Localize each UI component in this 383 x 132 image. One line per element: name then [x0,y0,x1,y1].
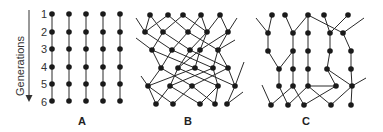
generation-number: 1 [41,8,47,20]
generations-axis: Generations [14,10,33,102]
panel-c [256,12,366,108]
panel-label-c: C [302,115,310,127]
generation-number: 3 [41,43,47,55]
panel-b [136,12,244,107]
generation-number: 4 [41,61,47,73]
generations-diagram: Generations 1 2 3 4 5 6 [0,0,383,132]
generation-number: 5 [41,78,47,90]
arrow-down-icon [26,95,33,102]
panel-a [49,11,123,104]
axis-label: Generations [14,36,26,96]
generation-number: 2 [41,26,47,38]
panel-label-b: B [184,115,192,127]
panel-label-a: A [78,115,86,127]
generation-number: 6 [41,96,47,108]
generation-numbers: 1 2 3 4 5 6 [41,8,47,108]
